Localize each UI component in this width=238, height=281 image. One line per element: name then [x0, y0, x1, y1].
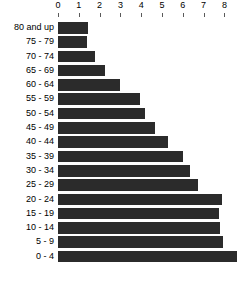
- x-axis-tick-mark: [100, 13, 101, 17]
- bar: [58, 93, 140, 105]
- bar-track: [58, 65, 105, 77]
- bar-row: 40 - 44: [0, 135, 238, 149]
- x-axis-tick-label: 5: [156, 0, 168, 11]
- category-label: 15 - 19: [0, 207, 54, 220]
- x-axis-tick-label: 4: [135, 0, 147, 11]
- bar-row: 0 - 4: [0, 250, 238, 264]
- bar: [58, 122, 155, 134]
- bar-row: 65 - 69: [0, 64, 238, 78]
- bar-track: [58, 51, 95, 63]
- category-label: 25 - 29: [0, 178, 54, 191]
- category-label: 10 - 14: [0, 221, 54, 234]
- category-label: 30 - 34: [0, 164, 54, 177]
- bar-row: 80 and up: [0, 21, 238, 35]
- bar-track: [58, 79, 120, 91]
- bar: [58, 194, 222, 206]
- x-axis-tick-mark: [183, 13, 184, 17]
- x-axis-tick-mark: [58, 13, 59, 17]
- bar: [58, 136, 168, 148]
- bar-track: [58, 179, 198, 191]
- bar-row: 5 - 9: [0, 235, 238, 249]
- category-label: 0 - 4: [0, 250, 54, 263]
- bar: [58, 79, 120, 91]
- bar-track: [58, 194, 222, 206]
- category-label: 20 - 24: [0, 193, 54, 206]
- x-axis-tick-label: 6: [177, 0, 189, 11]
- x-axis-tick-label: 3: [114, 0, 126, 11]
- x-axis-tick-mark: [120, 13, 121, 17]
- bar-row: 35 - 39: [0, 150, 238, 164]
- bar-track: [58, 236, 223, 248]
- category-label: 55 - 59: [0, 92, 54, 105]
- bar-track: [58, 22, 88, 34]
- bar: [58, 236, 223, 248]
- bar-row: 20 - 24: [0, 193, 238, 207]
- x-axis-tick-mark: [141, 13, 142, 17]
- x-axis-tick-label: 7: [198, 0, 210, 11]
- x-axis-tick-label: 1: [73, 0, 85, 11]
- bar-track: [58, 208, 219, 220]
- category-label: 65 - 69: [0, 64, 54, 77]
- plot-area: 0123456789 80 and up75 - 7970 - 7465 - 6…: [0, 0, 238, 281]
- bar: [58, 179, 198, 191]
- bar: [58, 165, 190, 177]
- bar-track: [58, 165, 190, 177]
- x-axis-tick-mark: [204, 13, 205, 17]
- bar: [58, 208, 219, 220]
- bar-track: [58, 108, 145, 120]
- bar: [58, 22, 88, 34]
- bar: [58, 251, 237, 263]
- x-axis-tick-mark: [79, 13, 80, 17]
- bar-track: [58, 93, 140, 105]
- bar-row: 45 - 49: [0, 121, 238, 135]
- category-label: 50 - 54: [0, 107, 54, 120]
- x-axis-tick-mark: [224, 13, 225, 17]
- bar-track: [58, 151, 183, 163]
- bar-track: [58, 136, 168, 148]
- category-label: 70 - 74: [0, 50, 54, 63]
- bar-track: [58, 251, 237, 263]
- category-label: 40 - 44: [0, 135, 54, 148]
- population-bar-chart: 0123456789 80 and up75 - 7970 - 7465 - 6…: [0, 0, 238, 281]
- category-label: 75 - 79: [0, 35, 54, 48]
- bar: [58, 65, 105, 77]
- bar-row: 50 - 54: [0, 107, 238, 121]
- bar-row: 15 - 19: [0, 207, 238, 221]
- category-label: 5 - 9: [0, 235, 54, 248]
- x-axis: 0123456789: [0, 0, 238, 22]
- category-label: 80 and up: [0, 21, 54, 34]
- bar-row: 30 - 34: [0, 164, 238, 178]
- bar-row: 25 - 29: [0, 178, 238, 192]
- category-label: 60 - 64: [0, 78, 54, 91]
- bar-track: [58, 222, 220, 234]
- bar-row: 75 - 79: [0, 35, 238, 49]
- x-axis-tick-label: 0: [52, 0, 64, 11]
- category-label: 35 - 39: [0, 150, 54, 163]
- bar-row: 70 - 74: [0, 50, 238, 64]
- bar: [58, 36, 87, 48]
- x-axis-tick-label: 2: [94, 0, 106, 11]
- bar-track: [58, 36, 87, 48]
- bar: [58, 151, 183, 163]
- bar: [58, 222, 220, 234]
- bar: [58, 108, 145, 120]
- bar: [58, 51, 95, 63]
- x-axis-tick-mark: [162, 13, 163, 17]
- bar-rows: 80 and up75 - 7970 - 7465 - 6960 - 6455 …: [0, 21, 238, 264]
- bar-track: [58, 122, 155, 134]
- bar-row: 60 - 64: [0, 78, 238, 92]
- bar-row: 55 - 59: [0, 92, 238, 106]
- category-label: 45 - 49: [0, 121, 54, 134]
- x-axis-tick-label: 8: [218, 0, 230, 11]
- bar-row: 10 - 14: [0, 221, 238, 235]
